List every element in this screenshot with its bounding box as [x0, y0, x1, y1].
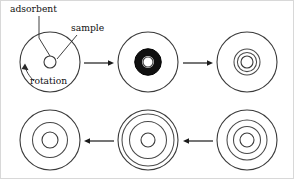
stage-3-disc-three-narrow-rings	[217, 32, 277, 92]
arrow-head-right-icon	[108, 60, 114, 66]
stage-4-disc-rings-spreading	[217, 110, 277, 170]
arrow-head-left-icon	[183, 138, 189, 144]
arrow-stage5-to-stage6	[84, 138, 114, 144]
sample-spot	[44, 56, 56, 68]
arrow-stage2-to-stage3	[183, 60, 213, 66]
arrow-head-right-icon	[207, 60, 213, 66]
figure-canvas: adsorbent sample rotation	[0, 0, 294, 179]
label-sample: sample	[71, 22, 104, 33]
label-adsorbent: adsorbent	[10, 3, 57, 14]
sample-spot	[143, 57, 153, 67]
sample-spot	[240, 133, 254, 147]
arrow-head-left-icon	[84, 138, 90, 144]
stage-2-disc-dark-adsorbed-band	[118, 32, 178, 92]
stage-6-disc-final-two-rings	[20, 110, 80, 170]
sample-spot	[141, 133, 155, 147]
label-rotation: rotation	[30, 75, 67, 86]
sample-spot	[241, 56, 253, 68]
stage-5-disc-rings-near-edge	[118, 110, 178, 170]
sample-spot	[42, 132, 58, 148]
arrow-stage4-to-stage5	[183, 138, 213, 144]
stage-1-disc-initial-sample-spot: adsorbent sample rotation	[10, 3, 104, 92]
rotating-disc-sequence-diagram: adsorbent sample rotation	[0, 0, 294, 179]
arrow-stage1-to-stage2	[84, 60, 114, 66]
